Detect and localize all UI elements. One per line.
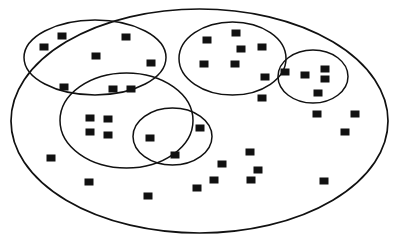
data-point (47, 155, 56, 162)
data-point (321, 76, 330, 83)
data-point (146, 135, 155, 142)
data-point (86, 129, 95, 136)
data-point (147, 60, 156, 67)
data-point (320, 178, 329, 185)
data-point (86, 115, 95, 122)
data-point (351, 111, 360, 118)
data-point (254, 167, 263, 174)
data-point (171, 152, 180, 159)
data-point (40, 44, 49, 51)
data-point (314, 90, 323, 97)
data-point (203, 37, 212, 44)
data-point (109, 86, 118, 93)
data-point (247, 177, 256, 184)
data-point-layer (40, 30, 360, 200)
cluster-diagram (0, 0, 410, 245)
data-point (301, 72, 310, 79)
data-point (246, 149, 255, 156)
cluster-diagram-canvas (0, 0, 410, 245)
data-point (218, 161, 227, 168)
data-point (122, 34, 131, 41)
data-point (144, 193, 153, 200)
data-point (261, 74, 270, 81)
data-point (104, 116, 113, 123)
data-point (127, 86, 136, 93)
data-point (321, 66, 330, 73)
data-point (258, 95, 267, 102)
outer-boundary (11, 9, 388, 233)
cluster-right-small (278, 50, 348, 103)
data-point (104, 132, 113, 139)
data-point (92, 53, 101, 60)
data-point (200, 61, 209, 68)
data-point (341, 129, 350, 136)
data-point (193, 185, 202, 192)
data-point (232, 30, 241, 37)
data-point (210, 177, 219, 184)
data-point (196, 125, 205, 132)
data-point (85, 179, 94, 186)
data-point (60, 84, 69, 91)
data-point (258, 44, 267, 51)
data-point (281, 69, 290, 76)
data-point (313, 111, 322, 118)
cluster-ellipse-layer (11, 9, 388, 233)
data-point (58, 33, 67, 40)
data-point (231, 61, 240, 68)
data-point (237, 46, 246, 53)
